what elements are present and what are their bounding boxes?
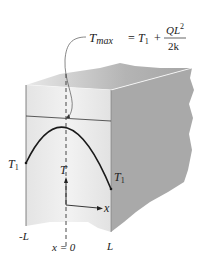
wall-side-face (111, 68, 194, 232)
plus-sign: + (154, 31, 161, 45)
equals-sign: = (128, 31, 135, 45)
fraction-denominator: 2k (168, 40, 180, 52)
plane-wall-diagram: Tmax = T1 + QL2 2k T1 T1 T x -L x = 0 L (0, 0, 205, 266)
neg-l-label: -L (19, 230, 29, 242)
x-axis-label: x (103, 201, 110, 215)
pos-l-label: L (106, 240, 113, 252)
t1-symbol: T1 (138, 31, 149, 46)
tmax-symbol: Tmax (89, 30, 113, 46)
fraction-numerator: QL2 (166, 22, 184, 36)
t1-left-label: T1 (8, 157, 19, 172)
x-zero-label: x = 0 (51, 241, 76, 253)
